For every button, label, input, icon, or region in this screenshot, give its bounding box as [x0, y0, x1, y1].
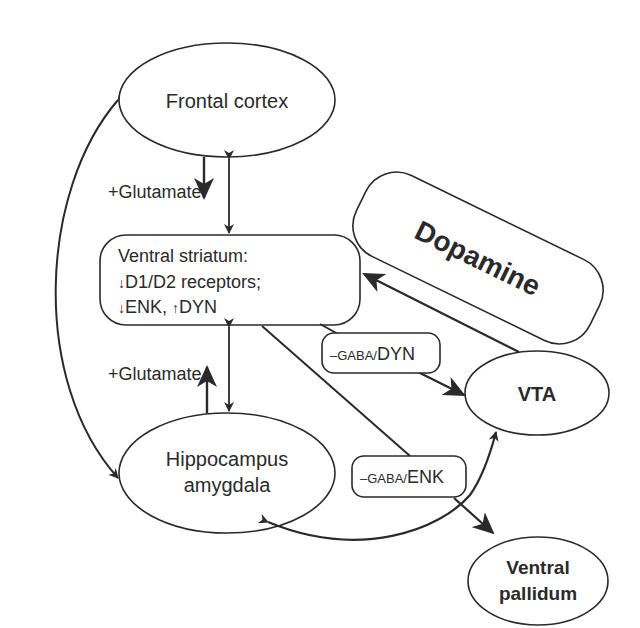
up-arrow-icon: ↑: [172, 300, 179, 316]
gaba-enk-to-pallidum-arrow: [454, 498, 493, 533]
glutamate-top-label: +Glutamate: [108, 182, 202, 202]
dopamine-node: Dopamine: [341, 161, 614, 356]
ventral-striatum-receptors: ↓D1/D2 receptors;: [118, 272, 261, 292]
glutamate-bottom-label: +Glutamate: [108, 364, 202, 384]
frontal-cortex-label: Frontal cortex: [166, 90, 288, 112]
vta-node: VTA: [465, 351, 609, 435]
gaba-dyn-to-vta-arrow: [418, 372, 464, 395]
hippocampus-amygdala-node: Hippocampus amygdala: [119, 413, 335, 533]
vta-label: VTA: [518, 383, 557, 405]
gaba-enk-label-box: –GABA/ENK: [352, 456, 466, 497]
neurocircuit-diagram: Frontal cortex +Glutamate Ventral striat…: [0, 0, 640, 628]
down-arrow-icon: ↓: [118, 300, 125, 316]
down-arrow-icon: ↓: [118, 275, 125, 291]
hippocampus-label: Hippocampus: [166, 448, 288, 470]
amygdala-label: amygdala: [184, 474, 272, 496]
frontal-cortex-node: Frontal cortex: [119, 43, 335, 157]
ventral-pallidum-node: Ventral pallidum: [468, 537, 608, 625]
gaba-dyn-label-box: –GABA/DYN: [322, 333, 440, 373]
ventral-label: Ventral: [506, 557, 569, 578]
ventral-striatum-peptides: ↓ENK, ↑DYN: [118, 297, 217, 317]
pallidum-label: pallidum: [499, 583, 577, 604]
ventral-striatum-title: Ventral striatum:: [118, 246, 248, 266]
ventral-striatum-node: Ventral striatum: ↓D1/D2 receptors; ↓ENK…: [100, 235, 360, 325]
